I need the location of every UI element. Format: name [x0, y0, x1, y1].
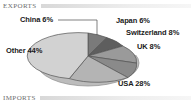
section-header-exports: EXPORTS: [0, 0, 191, 11]
exports-pie-chart-panel: EXPORTS: [0, 0, 191, 104]
section-header-imports-rule: [40, 96, 191, 100]
section-header-imports-label: IMPORTS: [0, 94, 40, 102]
pie-label-other: Other 44%: [6, 46, 42, 55]
pie-chart: China 6% Japan 6% Switzerland 8% UK 8% U…: [0, 11, 191, 92]
pie-label-uk: UK 8%: [137, 42, 160, 51]
section-header-imports: IMPORTS: [0, 92, 191, 103]
pie-label-china: China 6%: [20, 15, 53, 24]
section-header-exports-rule: [41, 4, 192, 8]
pie-label-switzerland: Switzerland 8%: [126, 28, 179, 37]
pie-label-japan: Japan 6%: [116, 16, 150, 25]
section-header-exports-label: EXPORTS: [0, 2, 41, 10]
pie-label-usa: USA 28%: [118, 79, 150, 88]
